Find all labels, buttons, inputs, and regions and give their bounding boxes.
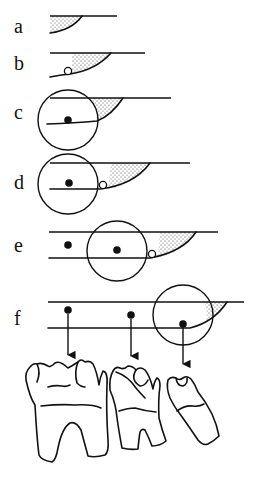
- filled-dot: [113, 246, 121, 254]
- filled-dot: [127, 311, 135, 319]
- first-molar: [26, 360, 108, 462]
- shaded-region: [204, 302, 227, 321]
- panel-b: b: [14, 52, 145, 77]
- open-circle: [148, 250, 155, 257]
- panel-e: e: [14, 221, 218, 281]
- panel-label-c: c: [14, 101, 23, 123]
- open-circle: [99, 181, 106, 188]
- panel-d: d: [14, 154, 190, 214]
- shaded-region: [50, 16, 82, 33]
- jaw-line-bottom: [48, 302, 227, 328]
- panel-label-f: f: [14, 307, 21, 329]
- filled-dot: [64, 116, 72, 124]
- panel-label-a: a: [14, 15, 23, 37]
- panel-c: c: [14, 90, 171, 150]
- shaded-region: [108, 163, 150, 189]
- open-circle: [64, 67, 71, 74]
- shaded-region: [72, 53, 111, 74]
- panel-label-e: e: [14, 234, 23, 256]
- filled-dot: [179, 320, 187, 328]
- filled-dot: [64, 306, 72, 314]
- panel-a: a: [14, 15, 117, 37]
- filled-dot: [64, 241, 72, 249]
- panel-f: f: [14, 285, 244, 364]
- panel-label-d: d: [14, 171, 24, 193]
- teeth-group: [26, 360, 219, 462]
- third-molar: [167, 377, 219, 445]
- filled-dot: [65, 179, 73, 187]
- second-molar: [110, 366, 166, 449]
- tooth-eruption-diagram: a b c d e: [0, 0, 261, 481]
- panel-label-b: b: [14, 52, 24, 74]
